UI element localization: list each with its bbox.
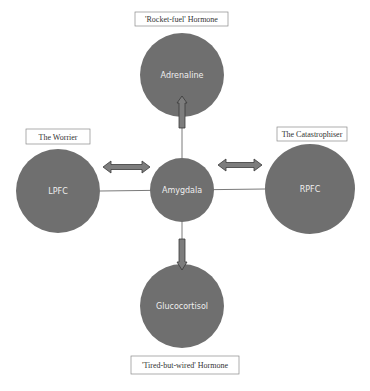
node-rpfc: RPFC — [265, 144, 355, 234]
annotation-bottom-text: 'Tired-but-wired' Hormone — [142, 361, 228, 370]
annotation-right: The Catastrophiser — [277, 127, 347, 141]
annotation-left-text: The Worrier — [39, 133, 78, 142]
node-label-rpfc: RPFC — [300, 185, 321, 194]
node-lpfc: LPFC — [16, 149, 100, 233]
node-label-glucocortisol: Glucocortisol — [156, 302, 208, 311]
annotation-right-text: The Catastrophiser — [282, 130, 343, 139]
node-label-adrenaline: Adrenaline — [161, 71, 204, 80]
node-amygdala: Amygdala — [150, 158, 214, 222]
annotation-top: 'Rocket-fuel' Hormone — [135, 12, 228, 26]
annotation-left: The Worrier — [26, 129, 90, 144]
node-label-amygdala: Amygdala — [162, 186, 202, 195]
double-arrow-right-icon — [218, 159, 262, 171]
annotation-bottom: 'Tired-but-wired' Hormone — [131, 356, 239, 374]
double-arrow-left-icon — [103, 161, 150, 173]
node-label-lpfc: LPFC — [48, 187, 68, 196]
node-glucocortisol: Glucocortisol — [140, 264, 224, 348]
annotation-top-text: 'Rocket-fuel' Hormone — [145, 15, 218, 24]
amygdala-diagram: Adrenaline LPFC RPFC Amygdala Glucocorti… — [0, 0, 370, 391]
